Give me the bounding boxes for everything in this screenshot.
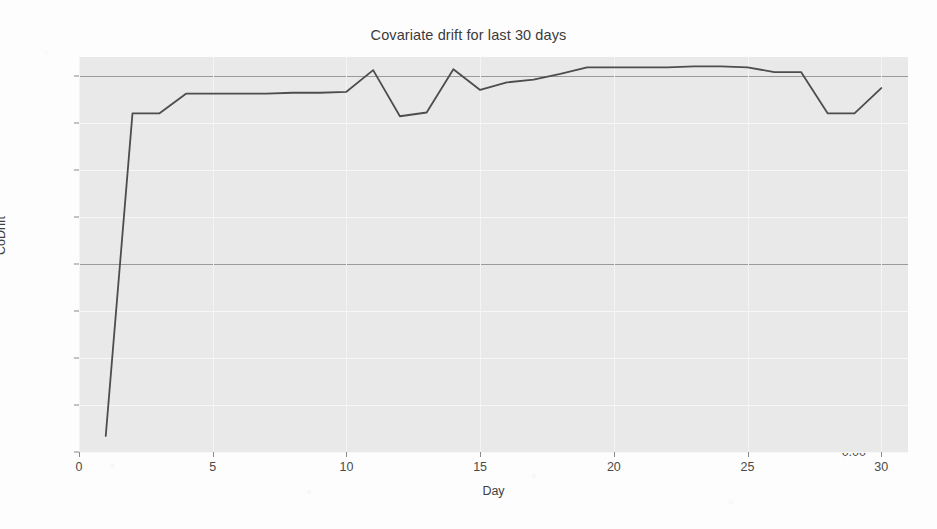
- x-tick-label: 5: [209, 460, 216, 474]
- x-tick-label: 15: [473, 460, 487, 474]
- chart-page: Covariate drift for last 30 days CoDrift…: [0, 0, 937, 529]
- x-tick-label: 25: [741, 460, 755, 474]
- chart-title: Covariate drift for last 30 days: [0, 27, 937, 43]
- x-tick-label: 10: [339, 460, 353, 474]
- x-tick-mark: [748, 452, 749, 457]
- line-series-codrift: [79, 57, 908, 452]
- series-polyline: [106, 66, 882, 436]
- y-axis-label: CoDrift: [0, 216, 8, 255]
- x-tick-label: 0: [76, 460, 83, 474]
- x-tick-label: 20: [607, 460, 621, 474]
- x-tick-mark: [213, 452, 214, 457]
- plot-area: [79, 57, 908, 452]
- x-tick-mark: [614, 452, 615, 457]
- x-tick-mark: [79, 452, 80, 457]
- x-tick-mark: [346, 452, 347, 457]
- x-tick-mark: [881, 452, 882, 457]
- x-axis-label: Day: [79, 484, 908, 498]
- gridline-minor-y: [79, 452, 908, 453]
- x-tick-mark: [480, 452, 481, 457]
- x-tick-label: 30: [874, 460, 888, 474]
